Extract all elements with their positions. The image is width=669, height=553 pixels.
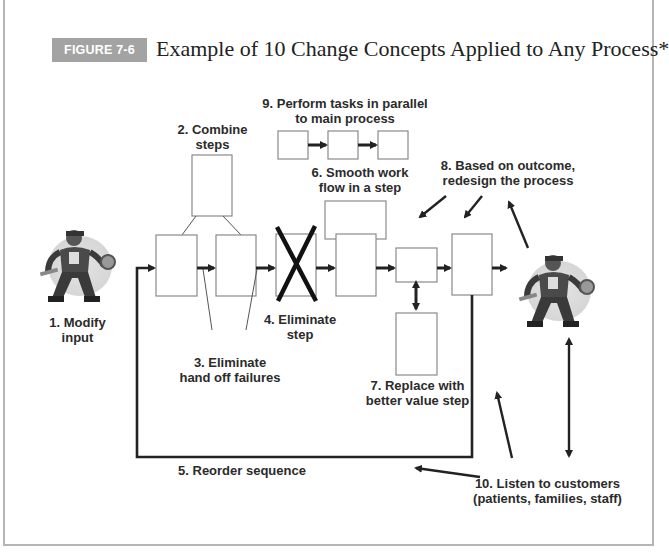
label-reorder: 5. Reorder sequence: [177, 463, 307, 478]
smooth-step-box: [325, 201, 386, 239]
label-line: 9. Perform tasks in parallel: [260, 96, 430, 111]
label-line: (patients, families, staff): [460, 491, 635, 506]
main-process-steps: [156, 234, 492, 296]
label-line: better value step: [355, 393, 480, 408]
label-smooth-flow: 6. Smooth work flow in a step: [305, 165, 415, 195]
label-line: 3. Eliminate: [170, 355, 290, 370]
label-line: 6. Smooth work: [305, 165, 415, 180]
label-line: 1. Modify: [40, 315, 115, 330]
label-line: redesign the process: [438, 173, 578, 188]
label-eliminate-handoff: 3. Eliminate hand off failures: [170, 355, 290, 385]
label-line: 7. Replace with: [355, 378, 480, 393]
label-line: 4. Eliminate: [255, 312, 345, 327]
combine-step-box: [192, 155, 232, 216]
label-line: 10. Listen to customers: [460, 476, 635, 491]
label-line: hand off failures: [170, 370, 290, 385]
label-line: to main process: [260, 111, 430, 126]
label-parallel: 9. Perform tasks in parallel to main pro…: [260, 96, 430, 126]
replace-step-box: [396, 313, 437, 375]
label-line: step: [255, 327, 345, 342]
label-replace-step: 7. Replace with better value step: [355, 378, 480, 408]
label-line: 2. Combine: [170, 122, 255, 137]
parallel-steps: [278, 131, 408, 159]
label-listen: 10. Listen to customers (patients, famil…: [460, 476, 635, 506]
label-line: steps: [170, 137, 255, 152]
label-eliminate-step: 4. Eliminate step: [255, 312, 345, 342]
label-modify-input: 1. Modify input: [40, 315, 115, 345]
mechanic-worker-icon: [519, 255, 594, 327]
label-line: flow in a step: [305, 180, 415, 195]
label-line: input: [40, 330, 115, 345]
label-line: 8. Based on outcome,: [438, 158, 578, 173]
mechanic-worker-icon: [40, 230, 115, 302]
label-redesign: 8. Based on outcome, redesign the proces…: [438, 158, 578, 188]
label-combine-steps: 2. Combine steps: [170, 122, 255, 152]
